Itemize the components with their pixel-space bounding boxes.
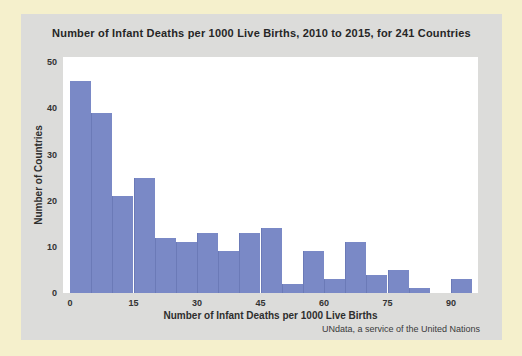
histogram-bar: [282, 284, 303, 293]
chart-footer: UNdata, a service of the United Nations: [21, 324, 480, 334]
histogram-bar: [451, 279, 472, 293]
histogram-bar: [388, 270, 409, 293]
x-tick-label: 60: [309, 297, 339, 309]
histogram-bar: [134, 178, 155, 293]
y-axis-label: Number of Countries: [33, 125, 44, 224]
x-tick-label: 15: [119, 297, 149, 309]
x-tick-label: 30: [182, 297, 212, 309]
histogram-bar: [324, 279, 345, 293]
x-tick-label: 0: [55, 297, 85, 309]
y-tick-label: 50: [31, 56, 57, 68]
x-tick-label: 90: [436, 297, 466, 309]
y-tick-label: 30: [31, 149, 57, 161]
histogram-bar: [218, 251, 239, 293]
x-tick-label: 45: [246, 297, 276, 309]
histogram-bar: [70, 81, 91, 293]
x-axis-label: Number of Infant Deaths per 1000 Live Bi…: [63, 310, 478, 321]
histogram-bar: [112, 196, 133, 293]
y-tick-label: 20: [31, 195, 57, 207]
page: { "page": { "background_color": "#f5f0cc…: [0, 0, 522, 356]
chart-title: Number of Infant Deaths per 1000 Live Bi…: [21, 27, 502, 39]
y-tick-label: 10: [31, 241, 57, 253]
histogram-bar: [197, 233, 218, 293]
histogram-bar: [303, 251, 324, 293]
chart-card: Number of Infant Deaths per 1000 Live Bi…: [21, 14, 502, 340]
histogram-bar: [345, 242, 366, 293]
histogram-bar: [176, 242, 197, 293]
x-tick-label: 75: [373, 297, 403, 309]
histogram-bar: [366, 275, 387, 293]
histogram-bar: [91, 113, 112, 293]
histogram-bar: [409, 288, 430, 293]
y-tick-label: 0: [31, 287, 57, 299]
histogram-bar: [155, 238, 176, 293]
histogram-bar: [261, 228, 282, 293]
histogram-bar: [239, 233, 260, 293]
plot-area: [63, 57, 478, 293]
y-tick-label: 40: [31, 102, 57, 114]
